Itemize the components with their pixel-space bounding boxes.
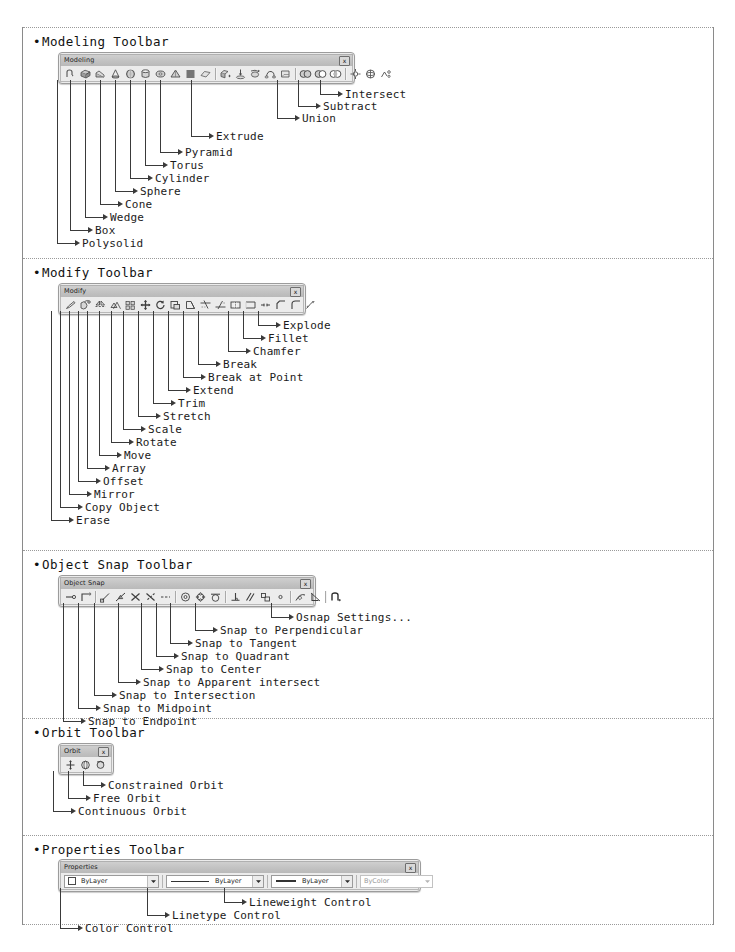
snap-extension-icon[interactable] [158, 590, 173, 604]
modeling-toolbar-titlebar[interactable]: Modeling x [60, 54, 353, 66]
close-icon[interactable]: x [405, 863, 416, 873]
color-control[interactable]: ByLayer [64, 875, 159, 888]
loft-icon[interactable] [278, 67, 293, 81]
fillet-icon[interactable] [288, 298, 303, 312]
snap-midpoint-icon[interactable] [113, 590, 128, 604]
section-title-orbit: •Orbit Toolbar [33, 725, 145, 740]
callout-label: Chamfer [253, 346, 301, 357]
intersect-icon[interactable] [328, 67, 343, 81]
close-icon[interactable]: x [290, 287, 301, 297]
subtract-icon[interactable] [313, 67, 328, 81]
3d-align-icon[interactable] [378, 67, 393, 81]
pyramid-icon[interactable] [168, 67, 183, 81]
temporary-track-point-icon[interactable] [63, 590, 78, 604]
sweep-icon[interactable] [263, 67, 278, 81]
scale-icon[interactable] [168, 298, 183, 312]
rotate-icon[interactable] [153, 298, 168, 312]
break-at-point-icon[interactable] [228, 298, 243, 312]
snap-apparent-intersect-icon[interactable] [143, 590, 158, 604]
callout-label: Copy Object [85, 502, 160, 513]
snap-intersection-icon[interactable] [128, 590, 143, 604]
linetype-control[interactable]: ByLayer [166, 875, 264, 888]
modeling-toolbar[interactable]: Modeling x [58, 52, 355, 84]
object-snap-toolbar[interactable]: Object Snap x [58, 575, 316, 607]
callout-label: Cone [125, 199, 152, 210]
wedge-icon[interactable] [93, 67, 108, 81]
chevron-down-icon[interactable] [252, 876, 263, 887]
callout-label: Pyramid [185, 147, 233, 158]
callout-label: Subtract [323, 101, 378, 112]
sphere-icon[interactable] [123, 67, 138, 81]
3d-rotate-icon[interactable] [363, 67, 378, 81]
erase-icon[interactable] [63, 298, 78, 312]
3d-move-icon[interactable] [348, 67, 363, 81]
snap-insert-icon[interactable] [258, 590, 273, 604]
constrained-orbit-icon[interactable] [63, 758, 78, 772]
press-pull-icon[interactable] [233, 67, 248, 81]
snap-endpoint-icon[interactable] [98, 590, 113, 604]
close-icon[interactable]: x [300, 579, 311, 589]
continuous-orbit-icon[interactable] [93, 758, 108, 772]
copy-object-icon[interactable] [78, 298, 93, 312]
snap-from-icon[interactable] [78, 590, 93, 604]
osnap-settings-icon[interactable] [328, 590, 343, 604]
stretch-icon[interactable] [183, 298, 198, 312]
section-title-modify: •Modify Toolbar [33, 265, 153, 280]
snap-parallel-icon[interactable] [243, 590, 258, 604]
toolbar-divider [325, 591, 326, 603]
revolve-icon[interactable] [248, 67, 263, 81]
snap-none-icon[interactable] [308, 590, 323, 604]
cylinder-icon[interactable] [138, 67, 153, 81]
extrude-icon[interactable] [218, 67, 233, 81]
offset-icon[interactable] [108, 298, 123, 312]
snap-node-icon[interactable] [273, 590, 288, 604]
toolbar-divider [295, 68, 296, 80]
helix-icon[interactable] [183, 67, 198, 81]
snap-center-icon[interactable] [178, 590, 193, 604]
callout-label: Snap to Midpoint [103, 703, 212, 714]
close-icon[interactable]: x [98, 747, 109, 757]
properties-toolbar[interactable]: Properties x ByLayer ByLayer [58, 859, 421, 892]
callout-label: Offset [103, 476, 144, 487]
snap-quadrant-icon[interactable] [193, 590, 208, 604]
callout-label: Move [124, 450, 151, 461]
object-snap-toolbar-titlebar[interactable]: Object Snap x [60, 577, 314, 589]
mirror-icon[interactable] [93, 298, 108, 312]
properties-toolbar-caption: Properties [64, 862, 98, 873]
callout-label: Snap to Quadrant [181, 651, 290, 662]
extend-icon[interactable] [213, 298, 228, 312]
torus-icon[interactable] [153, 67, 168, 81]
break-icon[interactable] [243, 298, 258, 312]
section-title-modeling: •Modeling Toolbar [33, 34, 169, 49]
free-orbit-icon[interactable] [78, 758, 93, 772]
callout-label: Erase [76, 515, 110, 526]
chamfer-icon[interactable] [273, 298, 288, 312]
explode-icon[interactable] [303, 298, 318, 312]
move-icon[interactable] [138, 298, 153, 312]
planar-surface-icon[interactable] [198, 67, 213, 81]
chevron-down-icon[interactable] [147, 876, 158, 887]
bullet-icon: • [33, 265, 42, 280]
close-icon[interactable]: x [339, 56, 350, 66]
array-icon[interactable] [123, 298, 138, 312]
snap-perpendicular-icon[interactable] [228, 590, 243, 604]
properties-toolbar-titlebar[interactable]: Properties x [60, 861, 419, 873]
callout-label: Linetype Control [172, 910, 281, 921]
polysolid-icon[interactable] [63, 67, 78, 81]
modify-toolbar[interactable]: Modify x [58, 283, 306, 315]
lineweight-control[interactable]: ByLayer [271, 875, 353, 888]
trim-icon[interactable] [198, 298, 213, 312]
section-title-properties: •Properties Toolbar [33, 842, 185, 857]
modify-toolbar-titlebar[interactable]: Modify x [60, 285, 304, 297]
cone-icon[interactable] [108, 67, 123, 81]
orbit-toolbar[interactable]: Orbit x [58, 743, 114, 775]
snap-tangent-icon[interactable] [208, 590, 223, 604]
box-icon[interactable] [78, 67, 93, 81]
modeling-toolbar-icons [60, 66, 353, 82]
snap-nearest-icon[interactable] [293, 590, 308, 604]
join-icon[interactable] [258, 298, 273, 312]
modify-toolbar-icons [60, 297, 304, 313]
orbit-toolbar-titlebar[interactable]: Orbit x [60, 745, 112, 757]
union-icon[interactable] [298, 67, 313, 81]
chevron-down-icon[interactable] [341, 876, 352, 887]
